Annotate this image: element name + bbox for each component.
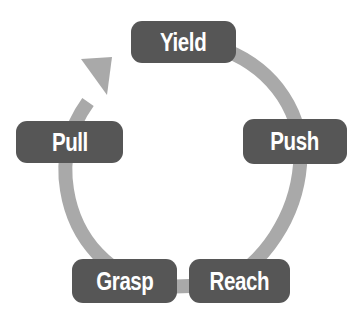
node-label: Pull: [52, 130, 88, 155]
node-label: Reach: [210, 269, 269, 294]
node-label: Yield: [160, 30, 206, 55]
node-pull: Pull: [16, 121, 123, 163]
node-grasp: Grasp: [72, 259, 177, 303]
node-push: Push: [243, 119, 347, 164]
node-label: Grasp: [96, 269, 153, 294]
node-yield: Yield: [131, 21, 236, 63]
arrowhead-icon: [81, 57, 112, 95]
node-label: Push: [271, 129, 319, 154]
cycle-diagram: Yield Push Reach Grasp Pull: [0, 0, 363, 323]
node-reach: Reach: [189, 259, 290, 303]
